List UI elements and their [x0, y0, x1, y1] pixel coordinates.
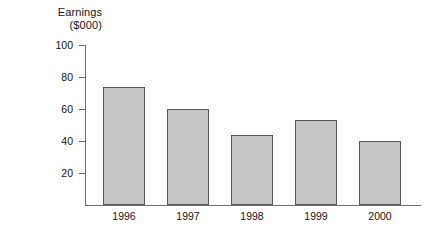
y-axis-tick [79, 173, 85, 174]
x-axis-line [85, 205, 421, 206]
y-axis-tick [79, 77, 85, 78]
x-axis-label-1998: 1998 [219, 210, 285, 222]
bar-chart: Earnings ($000) 20406080100 199619971998… [0, 0, 430, 230]
bar-2000 [359, 141, 401, 205]
x-axis-label-1999: 1999 [283, 210, 349, 222]
y-axis-tick [79, 45, 85, 46]
y-axis-tick-label: 80 [47, 72, 73, 82]
x-axis-label-1996: 1996 [91, 210, 157, 222]
y-axis-tick [79, 141, 85, 142]
y-axis-tick [79, 109, 85, 110]
bar-1996 [103, 87, 145, 205]
bar-1997 [167, 109, 209, 205]
plot-area: 20406080100 19961997199819992000 [0, 0, 430, 230]
x-axis-label-2000: 2000 [347, 210, 413, 222]
y-axis-tick-label-text: 40 [47, 136, 73, 146]
x-axis-label-1997: 1997 [155, 210, 221, 222]
y-axis-tick-label-text: 80 [47, 72, 73, 82]
y-axis-line [85, 45, 86, 206]
y-axis-tick-label: 60 [47, 104, 73, 114]
y-axis-tick-label: 20 [47, 168, 73, 178]
y-axis-tick-label-text: 60 [47, 104, 73, 114]
bar-1998 [231, 135, 273, 205]
y-axis-tick-label-text: 100 [47, 40, 73, 50]
y-axis-tick-label: 40 [47, 136, 73, 146]
y-axis-tick-label: 100 [47, 40, 73, 50]
bar-1999 [295, 120, 337, 205]
y-axis-tick-label-text: 20 [47, 168, 73, 178]
